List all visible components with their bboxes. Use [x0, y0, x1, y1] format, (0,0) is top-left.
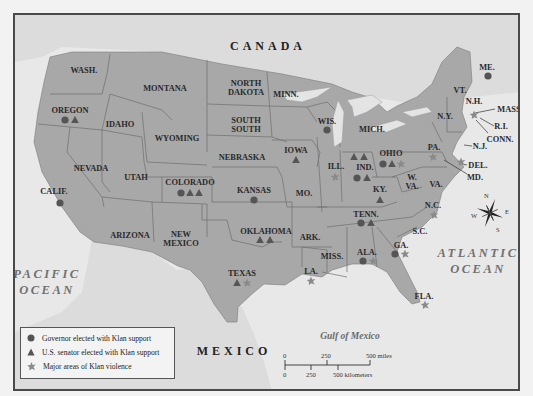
governor-marker-calif [56, 199, 63, 206]
state-ark: ARK. [300, 233, 321, 242]
state-north-dakota-1: NORTH [231, 79, 262, 88]
state-wyoming: WYOMING [155, 134, 200, 143]
governor-marker-tenn [357, 219, 364, 226]
governor-marker-wis [323, 126, 330, 133]
state-south-dakota-1: SOUTH [231, 116, 261, 125]
governor-marker-oregon [61, 116, 68, 123]
mexico-label: MEXICO [197, 344, 272, 358]
compass-w: W [471, 212, 478, 219]
state-texas: TEXAS [228, 269, 256, 278]
state-nh: N.H. [466, 97, 483, 106]
state-fla: FLA. [415, 292, 434, 301]
state-nevada: NEVADA [74, 164, 109, 173]
state-ky: KY. [373, 185, 387, 194]
state-mo: MO. [296, 189, 313, 198]
state-w-va-2: VA. [405, 182, 418, 191]
state-del: DEL. [468, 161, 487, 170]
state-mass: MASS. [497, 105, 520, 114]
legend-label-violence: Major areas of Klan violence [43, 362, 132, 371]
state-oregon: OREGON [51, 106, 88, 115]
state-montana: MONTANA [143, 84, 187, 93]
state-colorado: COLORADO [165, 178, 215, 187]
state-new-mexico-2: MEXICO [163, 239, 199, 248]
starburst-icon [27, 362, 36, 371]
gulf-label: Gulf of Mexico [320, 331, 380, 341]
state-me: ME. [479, 63, 495, 72]
state-vt: VT. [453, 86, 466, 95]
pacific-label-2: OCEAN [19, 283, 75, 297]
state-ind: IND. [356, 163, 373, 172]
state-la: LA. [304, 267, 318, 276]
scale-km-mid: 250 [306, 371, 316, 378]
state-wash: WASH. [71, 66, 98, 75]
state-nc: N.C. [425, 201, 441, 210]
state-iowa: IOWA [284, 146, 307, 155]
legend: Governor elected with Klan support U.S. … [20, 327, 175, 379]
state-md: MD. [467, 173, 483, 182]
state-calif: CALIF. [40, 187, 67, 196]
circle-icon [27, 334, 35, 342]
state-sc: S.C. [413, 227, 428, 236]
state-nj: N.J. [473, 142, 487, 151]
compass-n: N [484, 192, 489, 199]
state-w-va-1: W. [407, 173, 417, 182]
governor-marker-ind [353, 174, 360, 181]
scale-km-zero: 0 [283, 371, 286, 378]
compass-e: E [505, 208, 509, 215]
canada-label: CANADA [230, 39, 306, 53]
state-pa: PA. [428, 143, 441, 152]
scale-bar: 0 250 500 miles 0 250 500 kilometers [284, 352, 384, 382]
state-miss: MISS. [321, 252, 344, 261]
state-south-dakota-2: SOUTH [231, 125, 261, 134]
governor-marker-ohio [379, 160, 386, 167]
state-minn: MINN. [273, 90, 298, 99]
legend-item-violence: Major areas of Klan violence [27, 359, 168, 373]
state-nebraska: NEBRASKA [219, 153, 266, 162]
state-ala: ALA. [357, 248, 377, 257]
state-ill: ILL. [328, 162, 345, 171]
scale-miles-mid: 250 [321, 352, 331, 359]
state-north-dakota-2: DAKOTA [228, 88, 264, 97]
governor-marker-ala [359, 257, 366, 264]
state-mich: MICH. [359, 125, 385, 134]
legend-item-governor: Governor elected with Klan support [27, 331, 168, 345]
scale-km-end: 500 kilometers [333, 371, 372, 378]
legend-label-governor: Governor elected with Klan support [42, 334, 151, 343]
atlantic-label-1: ATLANTIC [436, 246, 518, 260]
atlantic-label-2: OCEAN [450, 262, 506, 276]
legend-item-senator: U.S. senator elected with Klan support [27, 345, 168, 359]
scale-miles-end: 500 miles [366, 352, 392, 359]
state-va: VA. [429, 180, 442, 189]
state-ga: GA. [394, 241, 409, 250]
state-idaho: IDAHO [106, 120, 135, 129]
pacific-label-1: PACIFIC [15, 267, 81, 281]
governor-marker-colorado [177, 189, 184, 196]
state-tenn: TENN. [353, 210, 378, 219]
compass-s: S [496, 226, 500, 233]
state-new-mexico-1: NEW [171, 230, 192, 239]
state-wis: WIS. [318, 117, 336, 126]
governor-marker-kansas [250, 196, 257, 203]
state-kansas: KANSAS [237, 186, 271, 195]
triangle-icon [27, 348, 35, 356]
state-oklahoma: OKLAHOMA [240, 227, 292, 236]
governor-marker-me [484, 72, 491, 79]
state-ri: R.I. [494, 122, 508, 131]
governor-marker-ga [391, 250, 398, 257]
legend-label-senator: U.S. senator elected with Klan support [42, 348, 159, 357]
state-conn: CONN. [487, 135, 514, 144]
scale-miles-zero: 0 [283, 352, 286, 359]
state-arizona: ARIZONA [110, 231, 150, 240]
state-utah: UTAH [124, 173, 148, 182]
state-ohio: OHIO [380, 149, 403, 158]
state-ny: N.Y. [437, 112, 453, 121]
